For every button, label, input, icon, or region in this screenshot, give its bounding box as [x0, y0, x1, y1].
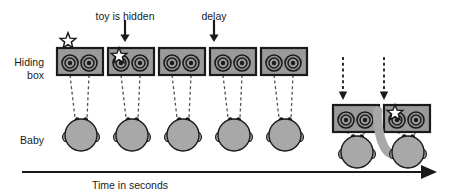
baby-head-circle — [116, 119, 148, 151]
baby-head — [63, 117, 100, 151]
row-label-hiding-box: Hidingbox — [0, 56, 44, 81]
target-dot — [363, 118, 367, 122]
sight-line — [223, 75, 228, 118]
toy-star — [60, 33, 76, 48]
row-label-baby: Baby — [0, 134, 44, 147]
arrow-head — [380, 92, 388, 101]
baby-head-circle — [341, 136, 373, 168]
row-label-line: box — [0, 69, 44, 82]
sight-line — [70, 75, 75, 118]
hiding-box[interactable] — [210, 48, 256, 75]
target-dot — [68, 61, 72, 65]
baby-head — [390, 134, 427, 168]
baby-head-circle — [218, 119, 250, 151]
box-target-right — [285, 55, 301, 71]
target-dot — [221, 61, 225, 65]
sight-line — [121, 75, 126, 118]
box-target-right — [132, 55, 148, 71]
arrow-head — [209, 35, 218, 43]
box-target-right — [234, 55, 250, 71]
box-target-right — [408, 112, 424, 128]
toy-hidden-arrow — [120, 20, 129, 42]
box-target-left — [62, 55, 78, 71]
target-dot — [138, 61, 142, 65]
delay-arrow — [209, 20, 218, 42]
row-label-line: Hiding — [0, 56, 44, 69]
time-axis-arrowhead — [421, 165, 437, 179]
box-target-right — [357, 112, 373, 128]
hiding-box[interactable] — [261, 48, 307, 75]
baby-head — [216, 117, 253, 151]
box-target-left — [215, 55, 231, 71]
sight-line — [291, 75, 293, 118]
target-dot — [189, 61, 193, 65]
target-dot — [170, 61, 174, 65]
hiding-box[interactable] — [57, 48, 103, 75]
baby-head — [165, 117, 202, 151]
target-dot — [87, 61, 91, 65]
baby-head-circle — [65, 119, 97, 151]
figure-canvas: toy is hiddendelayHidingboxBabyTime in s… — [0, 0, 467, 195]
target-dot — [414, 118, 418, 122]
box-target-left — [164, 55, 180, 71]
baby-head-circle — [167, 119, 199, 151]
baby-head — [114, 117, 151, 151]
arrow-head — [120, 35, 129, 43]
target-dot — [344, 118, 348, 122]
box-target-left — [338, 112, 354, 128]
target-dot — [272, 61, 276, 65]
drop-arrow-1 — [339, 57, 347, 100]
baby-head-circle — [392, 136, 424, 168]
box-target-right — [183, 55, 199, 71]
sight-line — [138, 75, 140, 118]
sight-line — [274, 75, 279, 118]
sight-line — [87, 75, 89, 118]
hiding-box[interactable] — [159, 48, 205, 75]
time-axis — [22, 165, 437, 179]
box-target-right — [81, 55, 97, 71]
object-permanence-diagram — [0, 0, 467, 195]
sight-line — [172, 75, 177, 118]
arrow-head — [339, 92, 347, 101]
row-label-line: Baby — [0, 134, 44, 147]
hiding-box[interactable] — [333, 105, 379, 132]
baby-head-circle — [269, 119, 301, 151]
time-axis-label: Time in seconds — [60, 179, 200, 191]
annotation-delay: delay — [154, 10, 274, 22]
drop-arrow-2 — [380, 57, 388, 100]
baby-head — [267, 117, 304, 151]
box-target-left — [266, 55, 282, 71]
target-dot — [291, 61, 295, 65]
sight-line — [189, 75, 191, 118]
sight-line — [240, 75, 242, 118]
baby-head — [339, 134, 376, 168]
target-dot — [240, 61, 244, 65]
